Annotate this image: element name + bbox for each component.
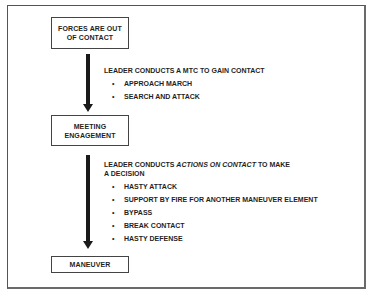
arrow-shaft <box>86 54 90 105</box>
bullet-icon: • <box>112 77 114 90</box>
bullet-icon: • <box>112 193 114 206</box>
transition-2-text: LEADER CONDUCTS ACTIONS ON CONTACT TO MA… <box>104 160 318 245</box>
bullet-icon: • <box>112 206 114 219</box>
list-item-text: BYPASS <box>124 209 152 216</box>
lead-line2: A DECISION <box>104 170 145 177</box>
list-item: •HASTY DEFENSE <box>104 232 318 245</box>
list-item-text: HASTY ATTACK <box>124 183 177 190</box>
list-item-text: SUPPORT BY FIRE FOR ANOTHER MANEUVER ELE… <box>124 196 318 203</box>
arrow-down-icon <box>86 155 91 249</box>
lead-suffix: TO MAKE <box>256 161 290 168</box>
list-item-text: SEARCH AND ATTACK <box>124 93 200 100</box>
arrow-down-icon <box>86 54 91 112</box>
transition-1-lead: LEADER CONDUCTS A MTC TO GAIN CONTACT <box>104 66 265 75</box>
transition-2-list: •HASTY ATTACK •SUPPORT BY FIRE FOR ANOTH… <box>104 180 318 245</box>
bullet-icon: • <box>112 232 114 245</box>
node-maneuver: MANEUVER <box>51 256 129 273</box>
node-label: MEETING ENGAGEMENT <box>64 122 115 140</box>
node-meeting-engagement: MEETING ENGAGEMENT <box>51 115 129 146</box>
node-label: MANEUVER <box>70 260 111 269</box>
list-item: •SUPPORT BY FIRE FOR ANOTHER MANEUVER EL… <box>104 193 318 206</box>
transition-1-list: •APPROACH MARCH •SEARCH AND ATTACK <box>104 77 265 103</box>
list-item: •BYPASS <box>104 206 318 219</box>
list-item: •SEARCH AND ATTACK <box>104 90 265 103</box>
list-item-text: HASTY DEFENSE <box>124 235 183 242</box>
list-item: •APPROACH MARCH <box>104 77 265 90</box>
list-item: •HASTY ATTACK <box>104 180 318 193</box>
lead-emphasis: ACTIONS ON CONTACT <box>176 161 256 168</box>
node-forces-out-of-contact: FORCES ARE OUT OF CONTACT <box>51 17 129 49</box>
list-item-text: BREAK CONTACT <box>124 222 185 229</box>
arrow-shaft <box>86 155 90 242</box>
arrow-head <box>83 241 93 249</box>
lead-prefix: LEADER CONDUCTS <box>104 161 176 168</box>
bullet-icon: • <box>112 180 114 193</box>
transition-1-text: LEADER CONDUCTS A MTC TO GAIN CONTACT •A… <box>104 66 265 103</box>
list-item: •BREAK CONTACT <box>104 219 318 232</box>
bullet-icon: • <box>112 90 114 103</box>
list-item-text: APPROACH MARCH <box>124 80 192 87</box>
node-label: FORCES ARE OUT OF CONTACT <box>58 24 122 42</box>
arrow-head <box>83 104 93 112</box>
bullet-icon: • <box>112 219 114 232</box>
transition-2-lead: LEADER CONDUCTS ACTIONS ON CONTACT TO MA… <box>104 160 318 178</box>
